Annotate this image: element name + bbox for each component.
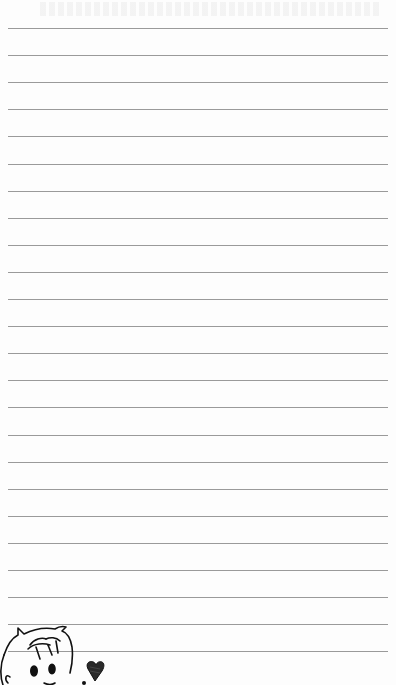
ruled-line: [8, 55, 388, 56]
ruled-line: [8, 109, 388, 110]
boy-face-icon: [0, 625, 110, 685]
ruled-line: [8, 28, 388, 29]
ruled-line: [8, 191, 388, 192]
ruled-line: [8, 516, 388, 517]
ruled-line: [8, 353, 388, 354]
ruled-line: [8, 570, 388, 571]
ruled-line: [8, 136, 388, 137]
ruled-line: [8, 272, 388, 273]
heart-icon: [87, 662, 104, 681]
ruled-line: [8, 245, 388, 246]
ruled-line: [8, 489, 388, 490]
ruled-line: [8, 597, 388, 598]
notebook-page: [0, 0, 396, 685]
ruled-line: [8, 407, 388, 408]
ruled-line: [8, 326, 388, 327]
ruled-line: [8, 380, 388, 381]
ruled-line: [8, 218, 388, 219]
ruled-line: [8, 82, 388, 83]
ruled-line: [8, 299, 388, 300]
ruled-line: [8, 435, 388, 436]
bleed-through-text: [40, 2, 380, 16]
ruled-line: [8, 543, 388, 544]
ruled-line: [8, 462, 388, 463]
ruled-line: [8, 164, 388, 165]
